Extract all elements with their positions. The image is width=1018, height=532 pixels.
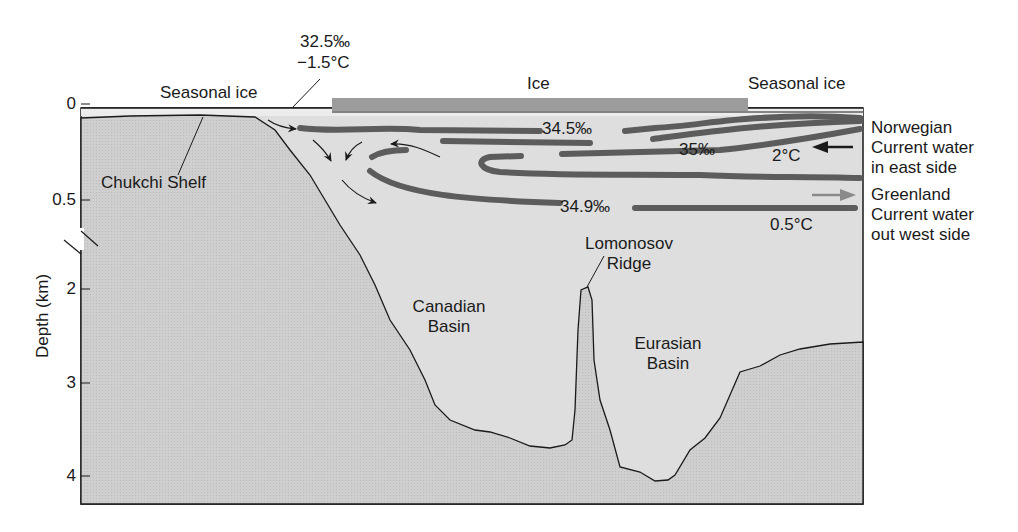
isohaline-35-label: 35‰ (679, 140, 715, 160)
diagram-canvas (0, 0, 1018, 532)
legend-norwegian-3: in east side (871, 158, 957, 178)
legend-greenland-2: Current water (871, 205, 974, 225)
lomonosov-ridge-label-2: Ridge (584, 254, 674, 274)
legend-greenland-3: out west side (871, 225, 970, 245)
legend-greenland-1: Greenland (871, 185, 950, 205)
seasonal-ice-left-label: Seasonal ice (160, 83, 257, 103)
legend-norwegian-2: Current water (871, 138, 974, 158)
lomonosov-ridge-label-1: Lomonosov (584, 234, 674, 254)
ice-bar (332, 98, 748, 111)
canadian-basin-label-1: Canadian (404, 297, 494, 317)
shelf-salinity-label: 32.5‰ (300, 32, 350, 52)
y-tick-4: 4 (46, 466, 76, 486)
seasonal-ice-right-label: Seasonal ice (748, 74, 845, 94)
isohaline-34-9-label: 34.9‰ (560, 197, 610, 217)
isohaline-34-5-label: 34.5‰ (542, 119, 592, 139)
shelf-temp-label: −1.5°C (297, 53, 350, 73)
canadian-basin-label-2: Basin (404, 317, 494, 337)
y-tick-0: 0 (46, 94, 76, 114)
y-tick-3: 3 (46, 373, 76, 393)
y-tick-0-5: 0.5 (46, 190, 76, 210)
legend-norwegian-1: Norwegian (871, 118, 952, 138)
eurasian-basin-label-2: Basin (623, 354, 713, 374)
temp-0-5c-label: 0.5°C (770, 215, 813, 235)
chukchi-shelf-label: Chukchi Shelf (101, 173, 206, 193)
temp-2c-label: 2°C (772, 146, 801, 166)
eurasian-basin-label-1: Eurasian (623, 334, 713, 354)
ice-label: Ice (527, 74, 550, 94)
y-axis-label: Depth (km) (33, 274, 53, 358)
